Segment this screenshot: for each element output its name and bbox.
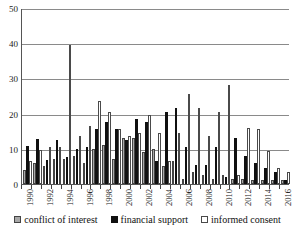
legend-label: informed consent xyxy=(211,214,281,225)
y-tick-label: 10 xyxy=(9,145,18,154)
x-tick-label: 1996 xyxy=(86,189,95,206)
bar xyxy=(198,108,201,184)
bar-group xyxy=(82,9,92,184)
bar xyxy=(105,122,108,184)
legend-label: conflict of interest xyxy=(24,214,97,225)
bar xyxy=(244,156,247,184)
bar xyxy=(125,140,128,184)
bar xyxy=(287,172,290,184)
bar-group xyxy=(191,9,201,184)
bar xyxy=(29,161,32,184)
bar xyxy=(264,168,267,184)
bar xyxy=(145,122,148,184)
bar-group xyxy=(72,9,82,184)
x-tick-label: 2016 xyxy=(284,189,293,206)
x-tick-label: 2014 xyxy=(264,189,273,206)
bar xyxy=(228,85,231,184)
bar xyxy=(168,161,171,184)
bar xyxy=(267,151,270,184)
bar xyxy=(128,136,131,184)
bar-group xyxy=(161,9,171,184)
bar-group xyxy=(250,9,260,184)
bar xyxy=(254,163,257,184)
bar-group xyxy=(52,9,62,184)
bar xyxy=(195,165,198,184)
bar-group xyxy=(211,9,221,184)
bar xyxy=(56,140,59,184)
x-tick-label: 2000 xyxy=(125,189,134,206)
bar-group xyxy=(260,9,270,184)
bar-group xyxy=(141,9,151,184)
bar xyxy=(108,112,111,184)
bar-group xyxy=(280,9,290,184)
y-tick-label: 0 xyxy=(14,181,19,190)
bar-group xyxy=(181,9,191,184)
bar-group xyxy=(32,9,42,184)
bar xyxy=(165,112,168,184)
bar-group xyxy=(101,9,111,184)
bar xyxy=(234,138,237,184)
bar xyxy=(208,136,211,184)
legend-item: financial support xyxy=(111,214,188,225)
bar xyxy=(49,147,52,184)
bar-group xyxy=(270,9,280,184)
x-tick-label: 2008 xyxy=(205,189,214,206)
x-tick-label: 1998 xyxy=(105,189,114,206)
bar-group xyxy=(221,9,231,184)
bar xyxy=(135,119,138,184)
x-tick-label: 1990 xyxy=(26,189,35,206)
bar-group xyxy=(42,9,52,184)
bar xyxy=(257,129,260,184)
x-tick-label: 2004 xyxy=(165,189,174,206)
bar xyxy=(205,165,208,184)
bar-group xyxy=(62,9,72,184)
bar xyxy=(115,129,118,184)
bar xyxy=(89,126,92,184)
bar-group xyxy=(121,9,131,184)
bar-group xyxy=(111,9,121,184)
bar xyxy=(98,101,101,184)
bar-group xyxy=(22,9,32,184)
bar xyxy=(247,128,250,184)
bar-chart: 01020304050 1990199219941996199820002002… xyxy=(0,0,295,230)
plot-area xyxy=(21,9,289,185)
bar xyxy=(175,108,178,184)
bar xyxy=(138,133,141,184)
bar-group xyxy=(230,9,240,184)
bar xyxy=(185,147,188,184)
bar xyxy=(46,160,49,184)
bar xyxy=(284,180,287,184)
bar xyxy=(59,147,62,184)
bar-group xyxy=(131,9,141,184)
bar xyxy=(218,112,221,184)
bar xyxy=(158,133,161,184)
bar xyxy=(215,147,218,184)
bar xyxy=(26,146,29,184)
x-tick-label: 1992 xyxy=(46,189,55,206)
bar-group xyxy=(91,9,101,184)
bar xyxy=(76,149,79,184)
x-tick-label: 2012 xyxy=(244,189,253,206)
x-tick-label: 2002 xyxy=(145,189,154,206)
legend-swatch-icon xyxy=(201,216,208,223)
x-tick-label: 2010 xyxy=(225,189,234,206)
bar-group xyxy=(171,9,181,184)
y-axis: 01020304050 xyxy=(0,0,20,190)
bar xyxy=(277,168,280,184)
bar xyxy=(79,136,82,184)
bar xyxy=(86,147,89,184)
bar xyxy=(225,177,228,184)
bar xyxy=(39,150,42,184)
bar xyxy=(237,175,240,184)
legend-item: informed consent xyxy=(201,214,281,225)
bar xyxy=(188,94,191,184)
bar xyxy=(118,129,121,184)
legend-swatch-icon xyxy=(14,216,21,223)
bar xyxy=(95,129,98,184)
y-tick-label: 40 xyxy=(9,40,18,49)
bar xyxy=(178,133,181,184)
y-tick-label: 20 xyxy=(9,110,18,119)
bar xyxy=(66,157,69,184)
x-tick-label: 1994 xyxy=(66,189,75,206)
bar-group xyxy=(151,9,161,184)
